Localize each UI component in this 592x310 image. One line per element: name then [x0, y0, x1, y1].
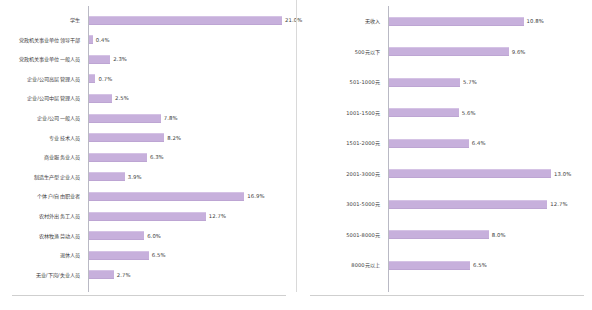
chart-bar-row: 专业技术人员8.2% [0, 132, 296, 144]
occupation-chart-bar-rows: 学生21.0%党政机关事业单位领导干部0.4%党政机关事业单位一般人员2.3%企… [0, 0, 296, 310]
category-label: 3001-5000元 [296, 198, 384, 210]
chart-bar-row: 退休人员6.5% [0, 249, 296, 261]
chart-bar [389, 17, 524, 26]
chart-bar-row: 党政机关事业单位一般人员2.3% [0, 53, 296, 65]
chart-bar [89, 35, 93, 44]
chart-bar-row: 个体户/自由职业者16.9% [0, 190, 296, 202]
bar-value-label: 16.9% [247, 190, 264, 202]
category-label: 1001-1500元 [296, 107, 384, 119]
category-label: 2001-3000元 [296, 168, 384, 180]
chart-bar [89, 231, 144, 240]
chart-bar-row: 农村外出务工人员12.7% [0, 210, 296, 222]
income-chart-plot-area: 无收入10.8%500元以下9.6%501-1000元5.7%1001-1500… [296, 0, 592, 310]
chart-bar-row: 企业/公司中层管理人员2.5% [0, 92, 296, 104]
chart-bar-row: 无业/下岗/失业人员2.7% [0, 269, 296, 281]
bar-value-label: 2.5% [115, 92, 129, 104]
chart-bar [389, 230, 489, 239]
category-label: 500元以下 [296, 46, 384, 58]
bar-value-label: 10.8% [527, 15, 544, 27]
chart-bar [89, 94, 112, 103]
chart-bar [89, 172, 125, 181]
income-chart-bar-rows: 无收入10.8%500元以下9.6%501-1000元5.7%1001-1500… [296, 0, 592, 310]
chart-bar-row: 500元以下9.6% [296, 46, 592, 58]
category-label: 农林牧渔劳动人员 [0, 230, 84, 242]
occupation-chart-bottom-rule [12, 295, 286, 296]
occupation-chart-panel: 学生21.0%党政机关事业单位领导干部0.4%党政机关事业单位一般人员2.3%企… [0, 0, 296, 310]
chart-bar [389, 78, 460, 87]
bar-value-label: 6.4% [472, 137, 486, 149]
chart-bar [389, 261, 470, 270]
chart-bar-row: 商业服务业人员6.3% [0, 151, 296, 163]
chart-bar [389, 169, 551, 178]
chart-bar-row: 农林牧渔劳动人员6.0% [0, 230, 296, 242]
chart-bar [89, 16, 282, 25]
chart-bar-row: 1501-2000元6.4% [296, 137, 592, 149]
chart-bar-row: 5001-8000元8.0% [296, 229, 592, 241]
category-label: 1501-2000元 [296, 137, 384, 149]
bar-value-label: 12.7% [209, 210, 226, 222]
chart-bar-row: 1001-1500元5.6% [296, 107, 592, 119]
category-label: 企业/公司中层管理人员 [0, 92, 84, 104]
bar-value-label: 6.0% [147, 230, 161, 242]
chart-bar-row: 2001-3000元13.0% [296, 168, 592, 180]
chart-bar-row: 学生21.0% [0, 14, 296, 26]
category-label: 无业/下岗/失业人员 [0, 269, 84, 281]
bar-value-label: 2.7% [117, 269, 131, 281]
category-label: 制造生产型企业人员 [0, 171, 84, 183]
chart-bar [89, 153, 147, 162]
chart-bar [89, 270, 114, 279]
bar-value-label: 6.5% [152, 249, 166, 261]
category-label: 企业/公司一般人员 [0, 112, 84, 124]
chart-bar [389, 47, 509, 56]
chart-bar [89, 212, 206, 221]
category-label: 退休人员 [0, 249, 84, 261]
chart-bar [89, 55, 110, 64]
bar-value-label: 7.8% [164, 112, 178, 124]
bar-value-label: 0.4% [96, 34, 110, 46]
bar-value-label: 12.7% [550, 198, 567, 210]
bar-value-label: 5.6% [462, 107, 476, 119]
chart-bar-row: 制造生产型企业人员3.9% [0, 171, 296, 183]
bar-value-label: 9.6% [512, 46, 526, 58]
category-label: 学生 [0, 14, 84, 26]
category-label: 501-1000元 [296, 76, 384, 88]
bar-value-label: 13.0% [554, 168, 571, 180]
chart-bar [389, 139, 469, 148]
chart-bar-row: 无收入10.8% [296, 15, 592, 27]
category-label: 个体户/自由职业者 [0, 190, 84, 202]
chart-bar-row: 3001-5000元12.7% [296, 198, 592, 210]
chart-bar-row: 501-1000元5.7% [296, 76, 592, 88]
bar-value-label: 2.3% [113, 53, 127, 65]
bar-value-label: 0.7% [98, 73, 112, 85]
income-chart-panel: 无收入10.8%500元以下9.6%501-1000元5.7%1001-1500… [296, 0, 592, 310]
chart-bar-row: 企业/公司一般人员7.8% [0, 112, 296, 124]
category-label: 企业/公司高层管理人员 [0, 73, 84, 85]
category-label: 商业服务业人员 [0, 151, 84, 163]
chart-bar-row: 企业/公司高层管理人员0.7% [0, 73, 296, 85]
chart-bar [89, 74, 95, 83]
chart-bar-row: 党政机关事业单位领导干部0.4% [0, 34, 296, 46]
category-label: 专业技术人员 [0, 132, 84, 144]
dual-bar-chart-figure: 学生21.0%党政机关事业单位领导干部0.4%党政机关事业单位一般人员2.3%企… [0, 0, 592, 310]
category-label: 无收入 [296, 15, 384, 27]
chart-bar [389, 108, 459, 117]
bar-value-label: 6.5% [473, 259, 487, 271]
category-label: 党政机关事业单位领导干部 [0, 34, 84, 46]
bar-value-label: 8.0% [492, 229, 506, 241]
bar-value-label: 6.3% [150, 151, 164, 163]
category-label: 农村外出务工人员 [0, 210, 84, 222]
chart-bar [389, 200, 547, 209]
chart-bar-row: 8000元以上6.5% [296, 259, 592, 271]
chart-bar [89, 192, 244, 201]
bar-value-label: 3.9% [128, 171, 142, 183]
income-chart-bottom-rule [310, 295, 584, 296]
occupation-chart-plot-area: 学生21.0%党政机关事业单位领导干部0.4%党政机关事业单位一般人员2.3%企… [0, 0, 296, 310]
chart-bar [89, 251, 149, 260]
category-label: 5001-8000元 [296, 229, 384, 241]
panel-divider [296, 0, 297, 292]
category-label: 8000元以上 [296, 259, 384, 271]
bar-value-label: 8.2% [167, 132, 181, 144]
category-label: 党政机关事业单位一般人员 [0, 53, 84, 65]
chart-bar [89, 133, 164, 142]
chart-bar [89, 114, 161, 123]
